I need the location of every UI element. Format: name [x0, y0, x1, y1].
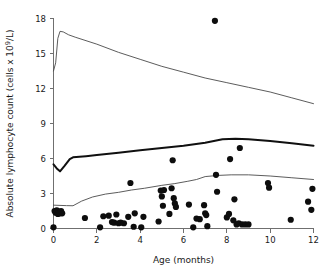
axis-title-group: Age (months) Absolute lymphocyte count (… [4, 29, 214, 264]
data-point [197, 216, 203, 222]
data-point [155, 218, 161, 224]
data-point [212, 18, 218, 24]
y-tick-label: 12 [35, 84, 46, 94]
data-point [203, 212, 209, 218]
chart-plot-area: 0369121518 024681012 Age (months) Absolu… [0, 0, 325, 275]
y-tick-label: 0 [41, 224, 46, 234]
reference-curves [54, 31, 314, 205]
y-tick-label: 9 [41, 119, 46, 129]
data-point [161, 187, 167, 193]
data-point [160, 203, 166, 209]
data-point [127, 180, 133, 186]
data-point [186, 201, 192, 207]
data-point [140, 214, 146, 220]
data-point [305, 199, 311, 205]
x-axis-title: Age (months) [153, 255, 214, 265]
data-point [50, 224, 56, 230]
data-point [231, 196, 237, 202]
x-tick-label: 4 [137, 235, 142, 245]
lower-reference-curve [54, 175, 314, 206]
data-point [138, 224, 144, 230]
x-axis-ticks: 024681012 [51, 229, 319, 245]
data-point [214, 189, 220, 195]
data-point [59, 210, 65, 216]
data-point [173, 204, 179, 210]
x-tick-label: 10 [265, 235, 276, 245]
data-point [131, 224, 137, 230]
median-curve [54, 139, 314, 172]
data-point [113, 211, 119, 217]
data-point [204, 223, 210, 229]
data-point [97, 224, 103, 230]
data-point [245, 221, 251, 227]
x-tick-label: 2 [94, 235, 99, 245]
data-point [201, 202, 207, 208]
data-point [171, 195, 177, 201]
data-point [166, 211, 172, 217]
y-tick-label: 15 [35, 49, 46, 59]
data-point [106, 213, 112, 219]
data-point [168, 185, 174, 191]
data-point [308, 207, 314, 213]
data-point [170, 157, 176, 163]
data-point [266, 185, 272, 191]
x-tick-label: 6 [181, 235, 186, 245]
data-points-group [50, 18, 315, 231]
lymphocyte-scatter-chart: 0369121518 024681012 Age (months) Absolu… [0, 0, 325, 275]
data-point [213, 172, 219, 178]
data-point [159, 193, 165, 199]
data-point [190, 224, 196, 230]
y-axis-ticks: 0369121518 [35, 14, 53, 234]
data-point [309, 186, 315, 192]
data-point [227, 156, 233, 162]
data-point [82, 215, 88, 221]
data-point [132, 210, 138, 216]
y-tick-label: 6 [41, 154, 46, 164]
data-point [100, 213, 106, 219]
data-point [125, 214, 131, 220]
data-point [121, 220, 127, 226]
y-tick-label: 18 [35, 14, 46, 24]
upper-reference-curve [54, 31, 314, 103]
data-point [288, 217, 294, 223]
x-tick-label: 12 [308, 235, 319, 245]
x-tick-label: 8 [224, 235, 229, 245]
data-point [237, 145, 243, 151]
y-axis-title: Absolute lymphocyte count (cells x 109/L… [4, 29, 15, 217]
data-point [226, 211, 232, 217]
y-tick-label: 3 [41, 189, 46, 199]
x-tick-label: 0 [51, 235, 56, 245]
